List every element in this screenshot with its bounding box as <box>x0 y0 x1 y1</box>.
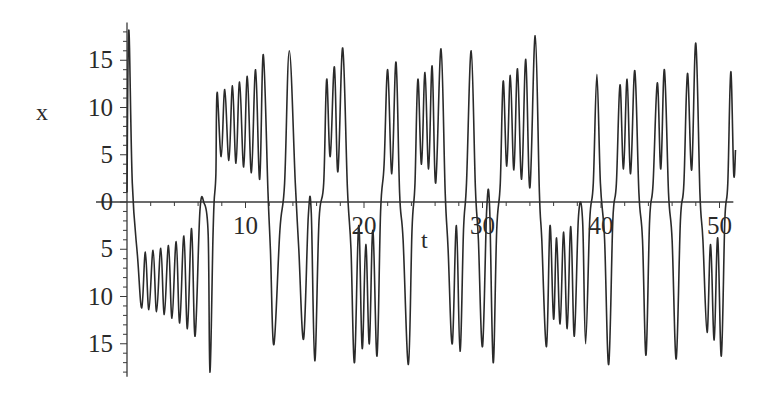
y-tick-label: 15 <box>88 46 113 73</box>
x-tick-label: 10 <box>233 212 258 239</box>
y-axis <box>120 22 127 376</box>
y-tick-label: 5 <box>101 141 114 168</box>
y-axis-label: x <box>36 99 48 125</box>
line-chart: 15105051015 1020304050 x t <box>0 0 763 402</box>
y-tick-label: 10 <box>88 283 113 310</box>
y-tick-labels: 15105051015 <box>88 46 113 357</box>
x-tick-label: 40 <box>589 212 614 239</box>
data-line-x-of-t <box>127 30 736 372</box>
x-tick-label: 30 <box>470 212 495 239</box>
y-tick-label: 0 <box>101 188 114 215</box>
x-axis-label: t <box>421 227 428 253</box>
y-tick-label: 15 <box>88 330 113 357</box>
x-axis <box>96 202 733 208</box>
y-tick-label: 5 <box>101 235 114 262</box>
y-tick-label: 10 <box>88 94 113 121</box>
x-tick-label: 50 <box>707 212 732 239</box>
